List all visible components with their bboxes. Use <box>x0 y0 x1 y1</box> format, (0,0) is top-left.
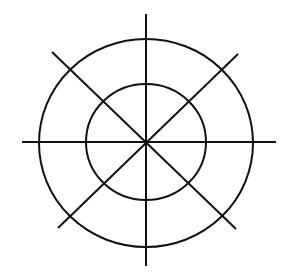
diagonal-line-nw-se <box>52 52 236 229</box>
radial-target-diagram <box>0 0 292 279</box>
